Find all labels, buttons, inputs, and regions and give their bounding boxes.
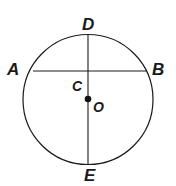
point-label-E: E (84, 167, 95, 184)
point-label-C: C (72, 79, 82, 93)
point-label-O: O (93, 100, 104, 114)
point-label-A: A (7, 61, 19, 78)
center-point-O (85, 96, 92, 103)
point-label-D: D (82, 16, 94, 33)
point-label-B: B (152, 61, 164, 78)
circle-diagram: D A B C O E (0, 0, 176, 186)
